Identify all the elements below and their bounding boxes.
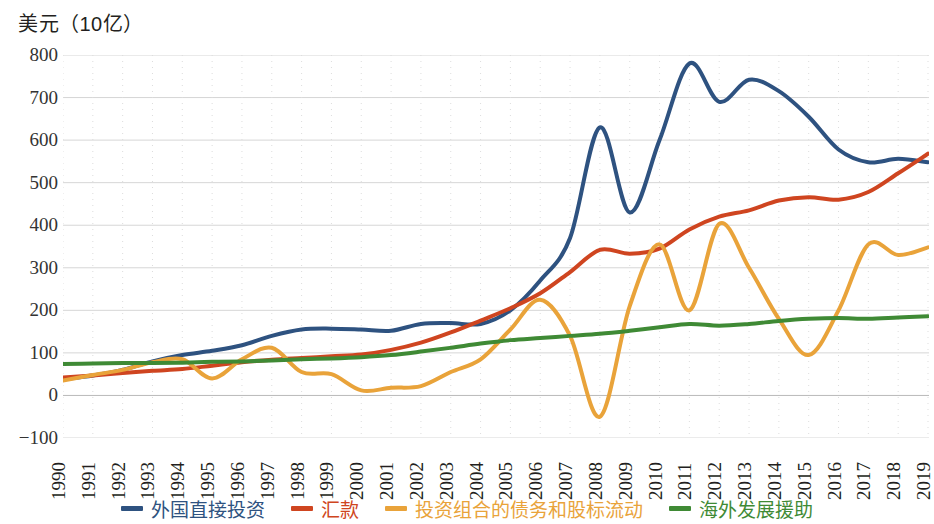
legend-item-4[interactable]: 海外发展援助 <box>669 495 813 522</box>
legend-swatch-icon <box>385 506 407 511</box>
y-tick-label: −100 <box>19 427 58 449</box>
y-axis-title: 美元（10亿） <box>18 8 144 37</box>
legend-item-2[interactable]: 汇款 <box>291 495 359 522</box>
y-tick-label: 100 <box>30 342 59 364</box>
y-tick-label: 0 <box>49 384 59 406</box>
plot-area <box>63 55 929 438</box>
legend-swatch-icon <box>669 506 691 511</box>
legend-label: 投资组合的债务和股标流动 <box>415 495 643 522</box>
legend-swatch-icon <box>291 506 313 511</box>
y-axis-tick-labels: 8007006005004003002001000−100 <box>0 55 58 438</box>
y-tick-label: 700 <box>30 87 59 109</box>
plot-svg <box>63 55 929 438</box>
series-line-1 <box>63 63 928 379</box>
y-tick-label: 200 <box>30 299 59 321</box>
legend-swatch-icon <box>121 506 143 511</box>
chart-legend: 外国直接投资汇款投资组合的债务和股标流动海外发展援助 <box>0 495 934 522</box>
legend-label: 外国直接投资 <box>151 495 265 522</box>
y-tick-label: 300 <box>30 257 59 279</box>
gridlines <box>63 55 929 438</box>
legend-item-3[interactable]: 投资组合的债务和股标流动 <box>385 495 643 522</box>
y-tick-label: 400 <box>30 214 59 236</box>
y-tick-label: 600 <box>30 129 59 151</box>
series-line-4 <box>63 316 928 364</box>
y-tick-label: 500 <box>30 172 59 194</box>
legend-item-1[interactable]: 外国直接投资 <box>121 495 265 522</box>
legend-label: 海外发展援助 <box>699 495 813 522</box>
chart-container: 美元（10亿） 8007006005004003002001000−100 19… <box>0 0 934 524</box>
y-tick-label: 800 <box>30 44 59 66</box>
legend-label: 汇款 <box>321 495 359 522</box>
x-axis-tick-labels: 1990199119921993199419951996199719981999… <box>63 440 929 500</box>
